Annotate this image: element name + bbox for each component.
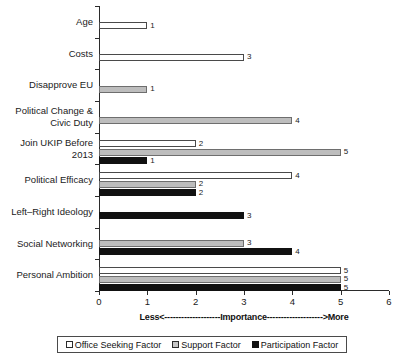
legend-swatch-participation-icon: [252, 341, 259, 348]
x-axis-title: Less<--------------------Importance-----…: [99, 312, 389, 322]
legend-item-label: Office Seeking Factor: [75, 340, 161, 350]
legend-item-participation[interactable]: Participation Factor: [252, 340, 339, 350]
legend-item-label: Support Factor: [181, 340, 241, 350]
bar-group: 1: [99, 69, 389, 101]
x-axis-tick-label: 4: [290, 296, 295, 307]
x-axis-tick: [292, 291, 293, 295]
y-axis-label-personal-ambition: Personal Ambition: [0, 269, 93, 281]
bar-support: [99, 117, 292, 124]
y-axis-label-left-right-ideology: Left–Right Ideology: [0, 206, 93, 218]
bar-value-label: 2: [199, 180, 203, 188]
bar-chart: AgeCostsDisapprove EUPolitical Change &C…: [0, 0, 404, 358]
y-axis-tick: [95, 164, 99, 165]
bar-office: [99, 22, 147, 29]
x-axis-tick-label: 1: [145, 296, 150, 307]
x-axis-tick: [147, 291, 148, 295]
y-axis-label-age: Age: [0, 16, 93, 28]
legend-item-support[interactable]: Support Factor: [172, 340, 241, 350]
plot-area: 1314251422334555: [99, 6, 389, 291]
bar-group: 422: [99, 164, 389, 196]
x-axis-tick-label: 5: [338, 296, 343, 307]
y-axis-tick: [95, 6, 99, 7]
x-axis-tick: [244, 291, 245, 295]
legend-item-label: Participation Factor: [261, 340, 339, 350]
y-axis-label-political-efficacy: Political Efficacy: [0, 174, 93, 186]
bar-value-label: 4: [295, 248, 299, 256]
bar-value-label: 4: [295, 172, 299, 180]
y-axis-category-labels: AgeCostsDisapprove EUPolitical Change &C…: [0, 6, 93, 291]
y-axis-label-costs: Costs: [0, 48, 93, 60]
bar-office: [99, 54, 244, 61]
x-axis-tick-label: 3: [241, 296, 246, 307]
bar-office: [99, 267, 341, 274]
bar-value-label: 5: [344, 148, 348, 156]
y-axis-label-political-change-civic-duty: Political Change &Civic Duty: [0, 105, 93, 128]
bar-value-label: 1: [150, 22, 154, 30]
x-axis-tick-label: 0: [96, 296, 101, 307]
bar-participation: [99, 248, 292, 255]
y-axis-label-join-ukip-before-2013: Join UKIP Before2013: [0, 137, 93, 160]
legend-swatch-support-icon: [172, 341, 179, 348]
x-axis-tick: [196, 291, 197, 295]
legend-item-office[interactable]: Office Seeking Factor: [66, 340, 161, 350]
bar-support: [99, 149, 341, 156]
bar-value-label: 4: [295, 117, 299, 125]
bar-participation: [99, 212, 244, 219]
bar-support: [99, 276, 341, 283]
bar-value-label: 1: [150, 85, 154, 93]
y-axis-tick: [95, 38, 99, 39]
bar-value-label: 3: [247, 239, 251, 247]
bar-group: 3: [99, 196, 389, 228]
bar-office: [99, 140, 196, 147]
y-axis-label-disapprove-eu: Disapprove EU: [0, 79, 93, 91]
x-axis-tick: [341, 291, 342, 295]
y-axis-tick: [95, 259, 99, 260]
y-axis-tick: [95, 133, 99, 134]
y-axis-tick: [95, 196, 99, 197]
bar-group: 251: [99, 133, 389, 165]
x-axis-tick: [389, 291, 390, 295]
bar-value-label: 3: [247, 53, 251, 61]
x-axis-tick-label: 2: [193, 296, 198, 307]
bar-group: 555: [99, 259, 389, 291]
bar-group: 3: [99, 38, 389, 70]
bar-support: [99, 181, 196, 188]
x-axis-tick: [99, 291, 100, 295]
chart-legend: Office Seeking FactorSupport FactorParti…: [57, 336, 347, 353]
bar-value-label: 3: [247, 212, 251, 220]
y-axis-tick: [95, 228, 99, 229]
x-axis-tick-label: 6: [386, 296, 391, 307]
y-axis-label-social-networking: Social Networking: [0, 238, 93, 250]
bar-support: [99, 240, 244, 247]
bar-group: 1: [99, 6, 389, 38]
bar-office: [99, 172, 292, 179]
bar-group: 4: [99, 101, 389, 133]
y-axis-tick: [95, 69, 99, 70]
y-axis-tick: [95, 101, 99, 102]
bar-group: 34: [99, 228, 389, 260]
bar-support: [99, 86, 147, 93]
legend-swatch-office-icon: [66, 341, 73, 348]
bar-value-label: 5: [344, 275, 348, 283]
bar-value-label: 2: [199, 140, 203, 148]
x-axis-ticks: 0123456: [99, 291, 389, 313]
